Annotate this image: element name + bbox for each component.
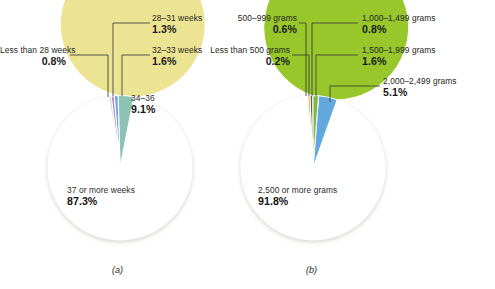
label-28-31-weeks: 28–31 weeks 1.3%: [152, 14, 202, 36]
label-less-than-500-grams: Less than 500 grams 0.2%: [205, 46, 290, 68]
label-37-or-more-weeks-category: 37 or more weeks: [67, 186, 135, 195]
label-500-999-grams: 500–999 grams 0.6%: [225, 14, 297, 36]
figure-two-pie-charts: Less than 28 weeks 0.8% 28–31 weeks 1.3%…: [0, 0, 495, 289]
caption-b: (b): [306, 265, 317, 275]
label-28-31-weeks-value: 1.3%: [152, 24, 202, 36]
label-37-or-more-weeks-value: 87.3%: [67, 196, 135, 208]
label-34-36-value: 9.1%: [131, 104, 155, 116]
label-2500-or-more-grams-value: 91.8%: [258, 196, 337, 208]
label-28-31-weeks-category: 28–31 weeks: [152, 14, 202, 23]
label-34-36: 34–36 9.1%: [131, 94, 155, 116]
pie-charts-svg: [0, 0, 495, 289]
label-2000-2499-grams-value: 5.1%: [383, 87, 457, 99]
label-less-than-28-weeks-value: 0.8%: [0, 56, 66, 68]
label-2500-or-more-grams: 2,500 or more grams 91.8%: [258, 186, 337, 208]
label-1500-1999-grams-value: 1.6%: [362, 56, 436, 68]
label-1000-1499-grams-category: 1,000–1,499 grams: [362, 14, 436, 23]
label-34-36-category: 34–36: [131, 94, 155, 103]
label-2500-or-more-grams-category: 2,500 or more grams: [258, 186, 337, 195]
label-1500-1999-grams: 1,500–1,999 grams 1.6%: [362, 46, 436, 68]
label-32-33-weeks-value: 1.6%: [152, 56, 202, 68]
label-1500-1999-grams-category: 1,500–1,999 grams: [362, 46, 436, 55]
label-less-than-500-grams-category: Less than 500 grams: [205, 46, 290, 55]
label-2000-2499-grams: 2,000–2,499 grams 5.1%: [383, 77, 457, 99]
label-500-999-grams-value: 0.6%: [225, 24, 297, 36]
label-32-33-weeks: 32–33 weeks 1.6%: [152, 46, 202, 68]
label-1000-1499-grams-value: 0.8%: [362, 24, 436, 36]
label-32-33-weeks-category: 32–33 weeks: [152, 46, 202, 55]
label-500-999-grams-category: 500–999 grams: [225, 14, 297, 23]
label-less-than-500-grams-value: 0.2%: [205, 56, 290, 68]
label-2000-2499-grams-category: 2,000–2,499 grams: [383, 77, 457, 86]
label-less-than-28-weeks-category: Less than 28 weeks: [0, 46, 66, 55]
label-1000-1499-grams: 1,000–1,499 grams 0.8%: [362, 14, 436, 36]
label-37-or-more-weeks: 37 or more weeks 87.3%: [67, 186, 135, 208]
caption-a: (a): [112, 265, 123, 275]
label-less-than-28-weeks: Less than 28 weeks 0.8%: [0, 46, 66, 68]
